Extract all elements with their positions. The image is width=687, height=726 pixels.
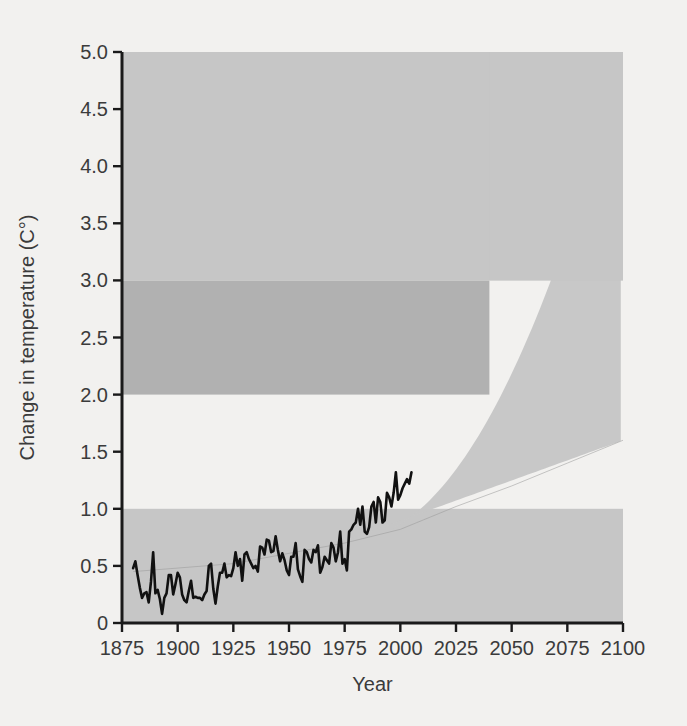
x-tick-label: 2000	[378, 637, 423, 659]
x-tick-label: 2050	[489, 637, 534, 659]
x-tick-label: 2100	[601, 637, 646, 659]
x-tick-label: 1900	[155, 637, 200, 659]
y-tick-label: 5.0	[80, 41, 108, 63]
band-low-impact-band	[122, 509, 623, 623]
x-tick-label: 1950	[267, 637, 312, 659]
y-tick-label: 1.5	[80, 441, 108, 463]
y-tick-label: 3.5	[80, 212, 108, 234]
x-tick-label: 1925	[211, 637, 256, 659]
y-tick-label: 2.0	[80, 384, 108, 406]
y-tick-label: 4.5	[80, 98, 108, 120]
y-tick-label: 4.0	[80, 155, 108, 177]
x-tick-label: 2075	[545, 637, 590, 659]
x-tick-label: 2025	[434, 637, 479, 659]
x-tick-label: 1875	[100, 637, 145, 659]
y-tick-label: 3.0	[80, 269, 108, 291]
y-tick-label: 0	[97, 612, 108, 634]
y-tick-label: 0.5	[80, 555, 108, 577]
band-high-impact-right	[489, 52, 623, 280]
y-tick-label: 2.5	[80, 327, 108, 349]
band-mid-impact-band	[122, 280, 489, 394]
x-tick-label: 1975	[322, 637, 367, 659]
chart-figure: 00.51.01.52.02.53.03.54.04.55.0187519001…	[0, 0, 687, 726]
temperature-projection-chart: 00.51.01.52.02.53.03.54.04.55.0187519001…	[0, 0, 687, 726]
y-tick-label: 1.0	[80, 498, 108, 520]
plot-area	[122, 52, 623, 623]
y-axis-title: Change in temperature (C°)	[16, 215, 38, 461]
x-axis-title: Year	[352, 673, 393, 695]
